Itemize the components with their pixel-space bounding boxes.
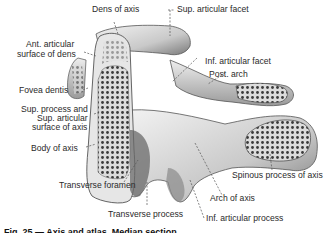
label-ant-articular-surface-2: surface of dens — [17, 49, 76, 59]
figure-caption: Fig. 25 — Axis and atlas. Median section — [4, 225, 177, 233]
label-post-arch: Post. arch — [209, 69, 248, 79]
label-inf-articular-process: Inf. articular process — [206, 213, 283, 223]
label-arch-of-axis: Arch of axis — [210, 193, 255, 203]
label-transverse-foramen: Transverse foramen — [59, 180, 136, 190]
anatomical-figure: Dens of axis Sup. articular facet Ant. a… — [0, 0, 332, 233]
label-dens-of-axis: Dens of axis — [92, 4, 139, 14]
label-sup-articular-facet: Sup. articular facet — [177, 4, 249, 14]
label-body-of-axis: Body of axis — [31, 143, 78, 153]
label-inf-articular-facet: Inf. articular facet — [205, 56, 271, 66]
label-transverse-process: Transverse process — [108, 209, 183, 219]
label-fovea-dentis: Fovea dentis — [19, 85, 68, 95]
label-sup-process-3: surface of axis — [32, 122, 87, 132]
label-ant-articular-surface-1: Ant. articular — [26, 39, 74, 49]
label-spinous-process: Spinous process of axis — [232, 170, 323, 180]
